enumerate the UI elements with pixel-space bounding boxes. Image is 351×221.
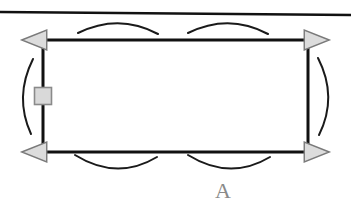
arrowhead-group bbox=[22, 30, 330, 162]
arc-bottom-left bbox=[75, 155, 157, 169]
arc-group bbox=[23, 23, 328, 168]
diagram-canvas: A bbox=[0, 0, 351, 221]
upper-boundary-line bbox=[0, 12, 351, 15]
edge-marker-square bbox=[35, 88, 52, 105]
arrowhead-bottom-right bbox=[304, 142, 329, 162]
arrowhead-bottom-left bbox=[22, 142, 47, 162]
arrowhead-top-left bbox=[22, 30, 47, 50]
figure-svg bbox=[0, 0, 351, 221]
arc-top-left bbox=[78, 23, 158, 34]
arc-right bbox=[318, 58, 328, 135]
arrowhead-top-right bbox=[304, 30, 329, 50]
arc-top-right bbox=[188, 23, 268, 34]
arc-left bbox=[23, 59, 33, 134]
figure-label-a: A bbox=[203, 180, 243, 202]
loop-rectangle bbox=[43, 40, 308, 152]
arc-bottom-right bbox=[188, 155, 270, 169]
